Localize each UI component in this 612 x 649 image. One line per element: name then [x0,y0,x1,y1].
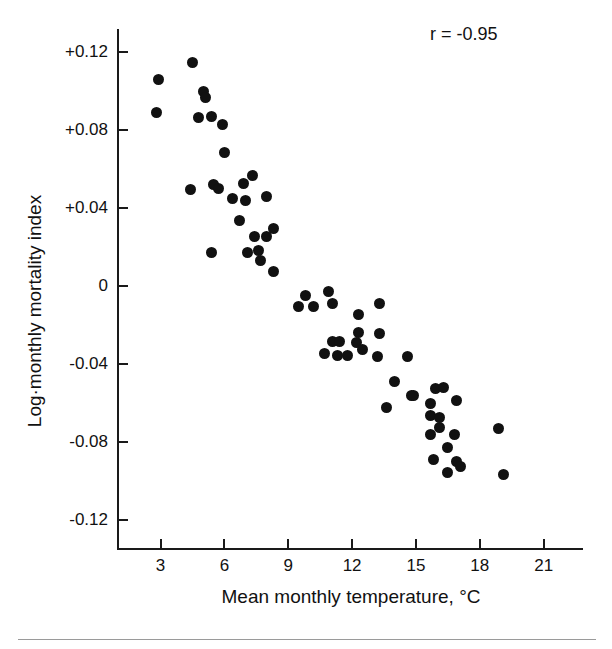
data-point [308,301,319,312]
data-point [334,336,345,347]
data-point [213,183,224,194]
data-point [247,170,258,181]
x-tick-label: 9 [258,556,318,576]
scatter-plot-figure: +0.12+0.08+0.040-0.04-0.08-0.12 36912151… [0,0,612,649]
data-point [293,301,304,312]
data-point [451,395,462,406]
x-tick-label: 12 [322,556,382,576]
data-point [268,223,279,234]
data-point [353,309,364,320]
x-tick-label: 6 [194,556,254,576]
data-point [442,442,453,453]
data-point [234,215,245,226]
data-point [249,231,260,242]
data-point [327,298,338,309]
data-point [217,119,228,130]
correlation-annotation: r = -0.95 [430,24,498,45]
x-tick-label: 3 [131,556,191,576]
data-point [319,348,330,359]
data-point [438,382,449,393]
data-point [455,461,466,472]
bottom-divider-rule [18,639,596,640]
data-point [402,351,413,362]
x-tick-label: 18 [450,556,510,576]
data-point [242,247,253,258]
data-point [381,402,392,413]
data-point [323,286,334,297]
data-point [219,147,230,158]
y-tick-label: +0.12 [12,42,108,62]
data-point [227,193,238,204]
data-point [408,390,419,401]
data-point [238,178,249,189]
data-point [153,74,164,85]
data-point [332,350,343,361]
y-axis-title: Log·monthly mortality index [24,146,46,476]
data-point [425,398,436,409]
x-tick-label: 15 [386,556,446,576]
data-point [185,184,196,195]
plot-area [118,29,582,549]
data-point [300,290,311,301]
data-point [151,107,162,118]
data-point [372,351,383,362]
data-point [200,92,211,103]
data-point [206,247,217,258]
y-tick-label: -0.12 [12,510,108,530]
x-axis-title: Mean monthly temperature, °C [118,586,584,608]
x-tick-label: 21 [514,556,574,576]
data-point [493,423,504,434]
data-point [374,298,385,309]
data-point [268,266,279,277]
data-point [240,195,251,206]
data-point [498,469,509,480]
data-point [353,327,364,338]
data-point [187,57,198,68]
data-point [428,454,439,465]
data-point [253,245,264,256]
data-point [389,376,400,387]
data-point [206,111,217,122]
data-point [357,344,368,355]
data-point [449,429,460,440]
y-tick-label: +0.08 [12,120,108,140]
data-point [425,429,436,440]
data-point [255,255,266,266]
data-point [261,191,272,202]
data-point [442,467,453,478]
data-point [193,112,204,123]
data-point [342,350,353,361]
data-point [374,328,385,339]
